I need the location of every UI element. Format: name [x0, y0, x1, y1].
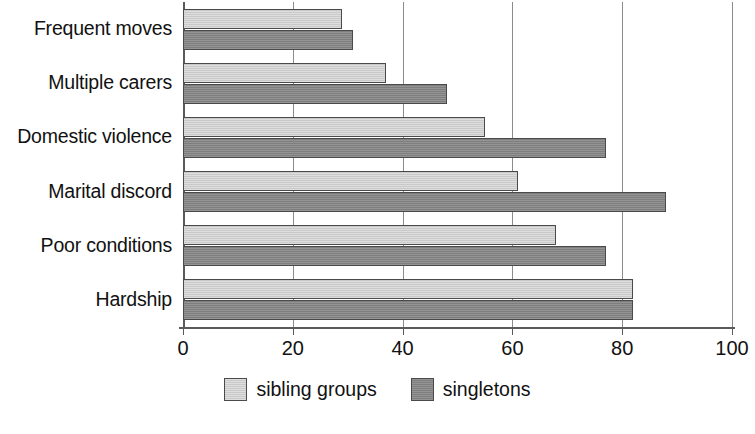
bar-sibling-groups-marital-discord	[183, 171, 518, 191]
legend-label: singletons	[443, 380, 531, 400]
legend-label: sibling groups	[256, 380, 376, 400]
category-label-multiple-carers: Multiple carers	[48, 73, 172, 93]
x-tick-label-100: 100	[715, 338, 748, 358]
bar-singletons-hardship	[183, 300, 633, 320]
chart-legend: sibling groupssingletons	[0, 378, 755, 401]
x-tick-80	[622, 327, 623, 335]
x-tick-label-40: 40	[391, 338, 413, 358]
category-label-hardship: Hardship	[96, 290, 172, 310]
x-tick-60	[512, 327, 513, 335]
light-gray-swatch	[224, 378, 247, 401]
bar-sibling-groups-frequent-moves	[183, 9, 342, 29]
gridline-100	[732, 2, 733, 328]
bar-singletons-poor-conditions	[183, 246, 606, 266]
category-label-domestic-violence: Domestic violence	[17, 127, 172, 147]
x-tick-20	[293, 327, 294, 335]
x-tick-0	[183, 327, 184, 335]
category-label-poor-conditions: Poor conditions	[41, 236, 172, 256]
bar-chart: Frequent movesMultiple carersDomestic vi…	[0, 0, 755, 434]
x-axis-line	[179, 327, 735, 329]
bar-singletons-multiple-carers	[183, 84, 447, 104]
x-tick-label-80: 80	[611, 338, 633, 358]
bar-singletons-marital-discord	[183, 192, 666, 212]
x-tick-label-0: 0	[177, 338, 188, 358]
bar-singletons-frequent-moves	[183, 30, 353, 50]
legend-item-sibling-groups: sibling groups	[224, 378, 376, 401]
bar-sibling-groups-multiple-carers	[183, 63, 386, 83]
category-label-marital-discord: Marital discord	[48, 182, 172, 202]
plot-area	[183, 2, 732, 327]
x-tick-100	[732, 327, 733, 335]
category-axis-labels: Frequent movesMultiple carersDomestic vi…	[0, 0, 178, 330]
bar-sibling-groups-domestic-violence	[183, 117, 485, 137]
bar-sibling-groups-hardship	[183, 279, 633, 299]
x-tick-label-20: 20	[282, 338, 304, 358]
x-tick-label-60: 60	[501, 338, 523, 358]
bar-singletons-domestic-violence	[183, 138, 606, 158]
category-label-frequent-moves: Frequent moves	[34, 19, 172, 39]
dark-gray-swatch	[411, 378, 434, 401]
bar-sibling-groups-poor-conditions	[183, 225, 556, 245]
x-tick-40	[403, 327, 404, 335]
legend-item-singletons: singletons	[411, 378, 531, 401]
